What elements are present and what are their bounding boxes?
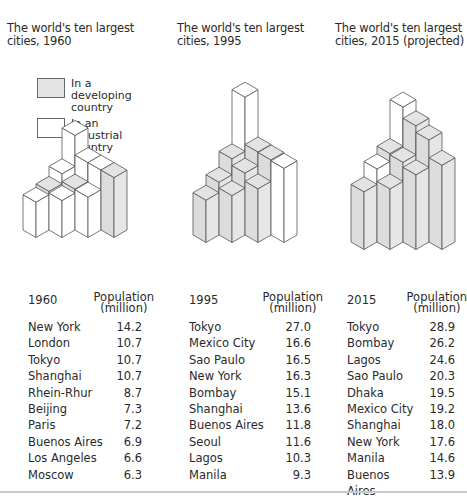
city-name: Bombay xyxy=(189,385,236,401)
population-value: 16.3 xyxy=(275,368,325,384)
year-header: 1960 xyxy=(28,292,57,313)
city-name: Shanghai xyxy=(189,401,243,417)
city-name: Rhein-Rhur xyxy=(28,385,92,401)
population-header: Population (million) xyxy=(263,292,325,313)
population-value: 6.9 xyxy=(106,434,156,450)
population-value: 26.2 xyxy=(419,335,467,351)
table-row: Bombay26.2 xyxy=(347,335,467,351)
table-row: Mexico City19.2 xyxy=(347,401,467,417)
year-header: 1995 xyxy=(189,292,218,313)
city-name: Tokyo xyxy=(347,319,379,335)
population-table: 2015 Population (million) Tokyo28.9Bomba… xyxy=(347,292,467,483)
city-name: Tokyo xyxy=(189,319,221,335)
isometric-bar-chart xyxy=(7,0,157,290)
panel-1995: The world's ten largest cities, 1995 199… xyxy=(177,0,327,490)
year-header: 2015 xyxy=(347,292,376,313)
city-name: Sao Paulo xyxy=(189,352,245,368)
table-row: Bombay15.1 xyxy=(189,385,325,401)
table-header: 1960 Population (million) xyxy=(28,292,156,313)
city-bar xyxy=(351,177,377,250)
table-row: Mexico City16.6 xyxy=(189,335,325,351)
city-name: Manila xyxy=(189,467,227,483)
table-row: Buenos Aires6.9 xyxy=(28,434,156,450)
city-name: Moscow xyxy=(28,467,74,483)
table-row: New York16.3 xyxy=(189,368,325,384)
population-value: 10.7 xyxy=(106,368,156,384)
city-bar xyxy=(49,186,75,238)
population-value: 10.3 xyxy=(275,450,325,466)
table-row: Sao Paulo20.3 xyxy=(347,368,467,384)
city-name: Bombay xyxy=(347,335,394,351)
population-value: 9.3 xyxy=(275,467,325,483)
city-name: Dhaka xyxy=(347,385,384,401)
city-bar xyxy=(245,174,271,243)
city-name: Mexico City xyxy=(189,335,255,351)
isometric-bar-chart xyxy=(167,0,317,290)
population-value: 6.3 xyxy=(106,467,156,483)
table-row: Paris7.2 xyxy=(28,417,156,433)
population-table: 1960 Population (million) New York14.2Lo… xyxy=(28,292,156,483)
table-row: New York17.6 xyxy=(347,434,467,450)
city-name: New York xyxy=(189,368,242,384)
city-bar xyxy=(101,163,127,238)
table-row: Manila14.6 xyxy=(347,450,467,466)
table-row: New York14.2 xyxy=(28,319,156,335)
table-row: Buenos Aires11.8 xyxy=(189,417,325,433)
population-value: 14.6 xyxy=(419,450,467,466)
table-row: Lagos10.3 xyxy=(189,450,325,466)
city-name: Los Angeles xyxy=(28,450,97,466)
city-name: Sao Paulo xyxy=(347,368,403,384)
table-row: Buenos Aires13.9 xyxy=(347,467,467,483)
city-bar xyxy=(377,174,403,250)
table-row: Shanghai18.0 xyxy=(347,417,467,433)
table-row: Tokyo10.7 xyxy=(28,352,156,368)
city-bar xyxy=(271,153,297,242)
population-value: 7.3 xyxy=(106,401,156,417)
population-value: 24.6 xyxy=(419,352,467,368)
population-value: 13.6 xyxy=(275,401,325,417)
table-header: 2015 Population (million) xyxy=(347,292,467,313)
population-value: 17.6 xyxy=(419,434,467,450)
table-header: 1995 Population (million) xyxy=(189,292,325,313)
population-value: 11.6 xyxy=(275,434,325,450)
population-value: 18.0 xyxy=(419,417,467,433)
city-name: Seoul xyxy=(189,434,221,450)
city-name: Mexico City xyxy=(347,401,413,417)
city-bar xyxy=(429,150,455,249)
city-name: Buenos Aires xyxy=(28,434,103,450)
table-row: Moscow6.3 xyxy=(28,467,156,483)
population-value: 6.6 xyxy=(106,450,156,466)
population-header: Population (million) xyxy=(407,292,467,313)
city-bar xyxy=(23,187,49,237)
table-row: Shanghai13.6 xyxy=(189,401,325,417)
city-name: New York xyxy=(347,434,400,450)
table-row: Manila9.3 xyxy=(189,467,325,483)
population-value: 16.5 xyxy=(275,352,325,368)
city-name: Lagos xyxy=(189,450,223,466)
bottom-divider xyxy=(0,491,467,493)
population-value: 15.1 xyxy=(275,385,325,401)
population-value: 27.0 xyxy=(275,319,325,335)
population-table: 1995 Population (million) Tokyo27.0Mexic… xyxy=(189,292,325,483)
population-header: Population (million) xyxy=(94,292,156,313)
table-row: London10.7 xyxy=(28,335,156,351)
population-value: 14.2 xyxy=(106,319,156,335)
city-name: Beijing xyxy=(28,401,67,417)
city-bar xyxy=(403,160,429,250)
table-row: Los Angeles6.6 xyxy=(28,450,156,466)
city-bar xyxy=(75,182,101,237)
city-name: London xyxy=(28,335,70,351)
city-name: Paris xyxy=(28,417,55,433)
table-row: Dhaka19.5 xyxy=(347,385,467,401)
table-row: Rhein-Rhur8.7 xyxy=(28,385,156,401)
city-name: Lagos xyxy=(347,352,381,368)
table-row: Seoul11.6 xyxy=(189,434,325,450)
table-row: Lagos24.6 xyxy=(347,352,467,368)
table-row: Shanghai10.7 xyxy=(28,368,156,384)
population-value: 16.6 xyxy=(275,335,325,351)
population-value: 7.2 xyxy=(106,417,156,433)
city-name: Shanghai xyxy=(28,368,82,384)
population-value: 19.5 xyxy=(419,385,467,401)
population-value: 20.3 xyxy=(419,368,467,384)
city-name: New York xyxy=(28,319,81,335)
